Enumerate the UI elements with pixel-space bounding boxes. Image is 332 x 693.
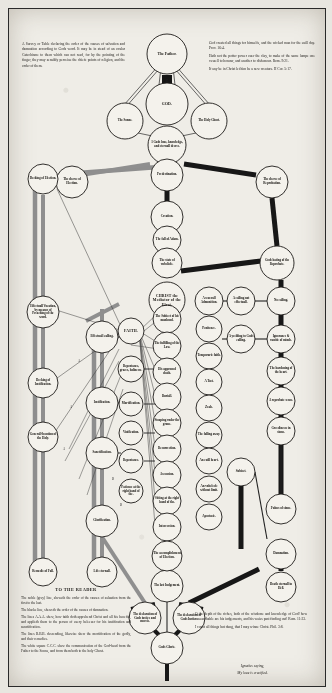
node-circle-god[interactable] (146, 83, 188, 125)
node-circle-vnbeleefe-limit[interactable] (196, 476, 222, 502)
node-circle-gods-hating[interactable] (260, 246, 294, 280)
node-circle-calling-not-effectuall[interactable] (227, 287, 255, 315)
node-circle-decking-justification[interactable] (28, 368, 58, 398)
node-circle-apostasie[interactable] (196, 504, 222, 530)
bottom-scripture-line-0: O the depth of the riches, both of the w… (195, 612, 307, 623)
node-circle-gods-decree[interactable] (148, 126, 186, 164)
scripture-text-line-0: God created all things for himselfe, and… (209, 41, 315, 52)
node-circle-falling-away[interactable] (196, 422, 222, 448)
node-circle-vivification[interactable] (119, 421, 143, 445)
node-circle-repentance-graces[interactable] (118, 356, 144, 382)
reader-text-line-4: The white square C.C.C. shew the communi… (21, 644, 131, 654)
to-the-reader-body: The noble (grey) line, sheweth the order… (21, 596, 131, 655)
node-circle-declaration-justice-mercie[interactable] (129, 602, 161, 634)
node-circle-stooping-graue[interactable] (153, 409, 181, 437)
node-circle-patience[interactable] (119, 479, 143, 503)
node-circle-mortification[interactable] (119, 392, 143, 416)
node-circle-resurrection[interactable] (153, 435, 181, 463)
node-circle-sitting-right-hand[interactable] (153, 487, 181, 515)
node-circle-repentance[interactable] (119, 449, 143, 473)
node-circle-faith[interactable] (118, 318, 144, 344)
node-circle-penitence[interactable] (196, 316, 222, 342)
node-circle-greedinesse-sinne[interactable] (267, 417, 295, 445)
line-marker-c-5: C (166, 79, 168, 83)
reader-text-line-3: The lines B.B.B. descending, likewise sh… (21, 632, 131, 642)
line-marker-a-1: A (70, 405, 72, 409)
node-circle-gods-glorie[interactable] (151, 632, 183, 664)
node-circle-accomplishment-election[interactable] (152, 541, 182, 571)
node-circle-life-eternall[interactable] (87, 557, 117, 587)
node-circle-a-tast[interactable] (196, 369, 222, 395)
ignatius-quote-block: Ignatius saying,My loue is crucified. (205, 664, 300, 679)
node-circle-approved-death[interactable] (153, 358, 181, 386)
node-circle-sonne[interactable] (107, 103, 143, 139)
golden-chain-diagram (9, 9, 325, 686)
node-circle-death-hell[interactable] (266, 572, 296, 602)
intro-text-block: A Survey or Table declaring the order of… (22, 42, 125, 71)
node-circle-subject[interactable] (227, 458, 255, 486)
paper-sheet: The Father.GOD.The Sonne.The Holy Ghost.… (8, 8, 326, 687)
node-circle-reprobate-sense[interactable] (267, 387, 295, 415)
screenshot-root: The Father.GOD.The Sonne.The Holy Ghost.… (0, 0, 332, 693)
intro-text-line-0: A Survey or Table declaring the order of… (22, 42, 125, 69)
to-the-reader-heading: TO THE READER (21, 587, 131, 593)
node-circle-sanctification[interactable] (86, 437, 118, 469)
ignatius-line-0: Ignatius saying, (205, 664, 300, 669)
node-circle-father[interactable] (147, 34, 187, 74)
node-circle-temporarie-faith[interactable] (196, 343, 222, 369)
line-marker-b-3: B (112, 477, 114, 481)
scripture-text-block: God created all things for himselfe, and… (209, 41, 315, 74)
scripture-text-line-2: If any be in Christ let him be a new cre… (209, 67, 315, 72)
node-circle-damnation[interactable] (266, 539, 296, 569)
node-circle-decking-election[interactable] (28, 164, 58, 194)
node-circle-no-calling[interactable] (267, 287, 295, 315)
node-circle-zeale[interactable] (196, 395, 222, 421)
line-marker-a-0: A (78, 359, 80, 363)
node-circle-yeelding-to-calling[interactable] (227, 325, 255, 353)
node-circle-a-seuerall-admonition[interactable] (195, 287, 223, 315)
line-marker-a-2: A (63, 447, 65, 451)
node-circle-justification[interactable] (86, 387, 118, 419)
node-circle-hardening-heart[interactable] (267, 357, 295, 385)
node-circle-an-euill-heart[interactable] (196, 448, 222, 474)
node-circle-remedie-fall[interactable] (29, 558, 57, 586)
node-circle-decree-reprobation[interactable] (256, 166, 288, 198)
black-chain (167, 164, 281, 603)
node-circle-predestination[interactable] (151, 159, 183, 191)
reader-text-line-2: The lines A.A.A. shew, how faith doth ap… (21, 615, 131, 630)
faith-lines-A (53, 189, 159, 525)
node-circle-generall-call[interactable] (28, 422, 58, 452)
node-circle-ignorance-vanity[interactable] (267, 325, 295, 353)
node-circle-intercession[interactable] (153, 513, 181, 541)
node-circle-decree-election[interactable] (56, 166, 88, 198)
node-circle-effectuall-vocation[interactable] (27, 296, 59, 328)
node-circle-fulfilling-law[interactable] (153, 332, 181, 360)
grey-chain (43, 164, 150, 603)
node-circle-buriall[interactable] (153, 383, 181, 411)
reader-text-line-1: The blacke line, sheweth the order of th… (21, 608, 131, 613)
bottom-scripture-line-1: I count all things but dung, that I may … (195, 625, 307, 630)
node-circle-glorification[interactable] (86, 505, 118, 537)
node-circle-fulnesse-sinne[interactable] (266, 494, 296, 524)
bottom-scripture-block: O the depth of the riches, both of the w… (195, 612, 307, 632)
reader-text-line-0: The noble (grey) line, sheweth the order… (21, 596, 131, 606)
scripture-text-line-1: Hath not the potter power ouer the clay,… (209, 54, 315, 65)
node-circle-effectuall-calling[interactable] (86, 321, 118, 353)
ignatius-line-1: My loue is crucified. (205, 671, 300, 676)
node-circle-state-of-unbelief[interactable] (152, 248, 182, 278)
node-circle-holy-ghost[interactable] (191, 103, 227, 139)
node-circle-ascension[interactable] (153, 461, 181, 489)
node-circle-subject-manhood[interactable] (153, 305, 181, 333)
to-the-reader-block: TO THE READER The noble (grey) line, she… (21, 587, 131, 657)
node-circle-last-judgement[interactable] (151, 570, 183, 602)
line-marker-b-4: B (120, 503, 122, 507)
